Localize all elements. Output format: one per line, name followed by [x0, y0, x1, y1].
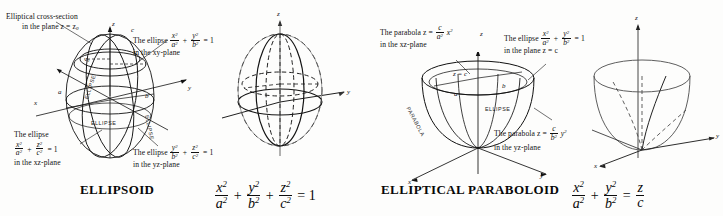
paraboloid-plane-label: z = c: [453, 70, 467, 78]
main-equation-elliptical-paraboloid: x2a2 + y2b2 = zc: [571, 180, 645, 211]
paraboloid-clean-axis-x-label: x: [594, 162, 597, 170]
ellipsoid-semi-axis-a-label: a: [58, 88, 62, 96]
ellipsoid-axis-x-label: x: [34, 99, 37, 107]
paraboloid-annotated-figure: [396, 52, 556, 182]
annotation-ellipse-xy-plane: The ellipse x2a2 + y2b2 = 1 in the xy-pl…: [133, 32, 215, 58]
ellipsoid-semi-axis-b-label: b: [145, 92, 149, 100]
paraboloid-axis-y-label: y: [540, 172, 543, 180]
caption-ellipsoid: ELLIPSOID: [80, 182, 154, 198]
annotation-ellipse-xz-plane: The ellipse x2a2 + z2c2 = 1 in the xz-pl…: [14, 130, 61, 168]
panel-ellipsoid: z c y x a b z0 ELLIPSE ELLIPSE ELLIPSE: [0, 0, 372, 216]
annotation-ellipse-plane-z-equals-c: The ellipse x2a2 + y2b2 = 1 in the plane…: [504, 30, 586, 56]
main-equation-ellipsoid: x2a2 + y2b2 + z2c2 = 1: [214, 180, 317, 211]
paraboloid-semi-axis-b-label: b: [502, 82, 506, 90]
caption-elliptical-paraboloid: ELLIPTICAL PARABOLOID: [381, 182, 559, 198]
paraboloid-clean-figure: [590, 18, 722, 170]
paraboloid-curve-label-ellipse: ELLIPSE: [485, 106, 510, 112]
paraboloid-semi-axis-a-label: a: [454, 90, 458, 98]
annotation-elliptical-cross-section: Elliptical cross-section in the plane z …: [6, 12, 79, 33]
ellipsoid-axis-z-label: z: [112, 20, 115, 28]
annotation-parabola-yz-plane: The parabola z = cb2 y2 in the yz-plane: [494, 125, 567, 153]
annotation-parabola-xz-plane: The parabola z = ca2 x2 in the xz-plane: [380, 24, 453, 50]
paraboloid-axis-z-label: z: [480, 30, 483, 38]
annotation-ellipse-yz-plane: The ellipse y2b2 + z2c2 = 1 in the yz-pl…: [133, 144, 215, 170]
ellipsoid-clean-axis-y-label: y: [347, 88, 350, 96]
paraboloid-clean-axis-z-label: z: [635, 14, 638, 22]
ellipsoid-plane-height-label: z0: [85, 56, 89, 63]
ellipsoid-axis-y-label: y: [188, 84, 191, 92]
panel-elliptical-paraboloid: z y x z = c a b PARABOLA ELLIPSE: [372, 0, 723, 216]
ellipsoid-clean-figure: [218, 14, 366, 166]
ellipsoid-curve-label-ellipse-2: ELLIPSE: [91, 120, 116, 126]
ellipsoid-clean-axis-z-label: z: [277, 10, 280, 18]
paraboloid-clean-axis-y-label: y: [716, 132, 719, 140]
figure-canvas: z c y x a b z0 ELLIPSE ELLIPSE ELLIPSE: [0, 0, 723, 216]
